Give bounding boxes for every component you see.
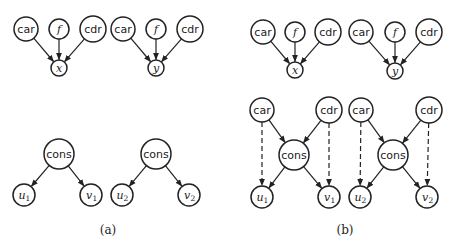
node-cdr: cdr [315,19,341,45]
captions-layer: (a)(b) [100,223,354,237]
node-subscript: 1 [331,196,336,205]
node-car: car [349,20,373,44]
edge-a_car2-to-a_y [131,38,151,61]
edge-b_cdr2-to-b_y [401,42,421,65]
node-subscript: 1 [26,194,31,203]
edge-a_car1-to-a_x [34,38,54,61]
node-car: car [349,98,373,122]
node-y: y [148,60,164,76]
edge-a_cdr2-to-a_y [162,39,182,62]
node-label: car [254,26,272,39]
node-label: car [352,104,370,117]
node-v2: v2 [416,186,438,208]
node-label: car [352,26,370,39]
node-label: u [256,191,263,204]
edge-b_car4-to-b_cons2 [368,120,384,143]
node-label: cons [143,148,169,161]
edge-b_cdr4-to-b_cons2 [403,120,421,143]
node-label: y [391,65,399,78]
node-u2: u2 [111,184,133,206]
node-label: car [17,23,35,36]
node-f: f [385,22,405,42]
node-label: cdr [84,23,102,36]
node-subscript: 2 [191,194,196,203]
node-cons: cons [44,139,74,169]
node-cons: cons [141,139,171,169]
node-label: cdr [320,104,338,117]
node-subscript: 2 [362,196,367,205]
node-y: y [387,63,403,79]
node-label: x [292,64,299,77]
node-f: f [146,19,166,39]
edge-b_cons1-to-b_u1 [269,167,285,188]
panel-caption-b: (b) [336,223,353,237]
node-f: f [49,19,69,39]
node-u2: u2 [349,186,371,208]
node-cdr: cdr [416,97,442,123]
edge-a_cons2-to-a_u2 [129,166,146,187]
node-u1: u1 [13,184,35,206]
edge-b_cons2-to-b_u2 [367,167,384,188]
edge-a_cdr1-to-a_x [65,39,85,62]
node-label: u [354,191,361,204]
node-label: car [253,104,271,117]
node-label: x [56,62,63,75]
node-f: f [285,22,305,42]
edge-b_car1-to-b_x [271,41,290,63]
node-v2: v2 [178,184,200,206]
node-label: cdr [319,26,337,39]
node-car: car [111,17,135,41]
node-label: cdr [181,23,199,36]
node-label: u [18,189,25,202]
edge-b_cdr3-to-b_cons1 [304,120,322,143]
node-cons: cons [279,140,309,170]
node-x: x [51,60,67,76]
node-v1: v1 [80,184,102,206]
dashed-edge-b_cdr4-to-b_v2 [427,123,428,186]
edge-a_cons1-to-a_u1 [31,165,49,186]
edge-b_cdr1-to-b_x [301,42,320,64]
edge-b_cons1-to-b_v1 [304,167,322,189]
node-x: x [287,62,303,78]
node-v1: v1 [318,186,340,208]
node-subscript: 2 [124,194,129,203]
node-label: cdr [420,26,438,39]
node-cdr: cdr [316,97,342,123]
node-label: cons [281,149,307,162]
edge-b_car3-to-b_cons1 [269,120,285,143]
node-label: cons [46,148,72,161]
node-u1: u1 [251,186,273,208]
node-label: cdr [420,104,438,117]
node-car: car [14,17,38,41]
dashed-edge-b_car4-to-b_u2 [360,122,361,186]
node-label: y [152,62,160,75]
node-label: u [116,189,123,202]
edge-a_cons2-to-a_v2 [165,166,181,186]
node-cdr: cdr [416,19,442,45]
node-label: cons [380,149,406,162]
nodes-layer: carfcdrxcarfcdryconsu1v1consu2v2carfcdrx… [13,16,442,208]
node-subscript: 2 [429,196,434,205]
node-car: car [251,20,275,44]
node-car: car [250,98,274,122]
node-cons: cons [378,140,408,170]
edge-b_car2-to-b_y [369,41,390,65]
node-cdr: cdr [177,16,203,42]
panel-caption-a: (a) [100,223,117,237]
node-subscript: 1 [93,194,98,203]
node-label: car [114,23,132,36]
diagram-canvas: carfcdrxcarfcdryconsu1v1consu2v2carfcdrx… [0,0,454,250]
node-subscript: 1 [264,196,269,205]
edge-b_cons2-to-b_v2 [402,167,419,188]
node-cdr: cdr [80,16,106,42]
edge-a_cons1-to-a_v1 [68,166,84,186]
